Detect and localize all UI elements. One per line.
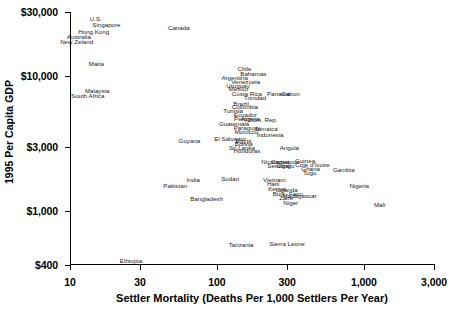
y-tick-mark: $30,000 — [65, 12, 71, 13]
y-tick-mark: $1,000 — [65, 211, 71, 212]
y-tick-mark: $10,000 — [65, 76, 71, 77]
data-point-label: Bangladesh — [190, 196, 223, 202]
x-tick-label: 100 — [208, 276, 225, 288]
data-point-label: Tanzania — [229, 242, 254, 248]
x-tick-label: 30 — [134, 276, 145, 288]
data-point-label: Niger — [283, 200, 298, 206]
plot-area: $400$1,000$3,000$10,000$30,000 103010030… — [70, 12, 434, 265]
data-point-label: India — [187, 176, 200, 182]
x-tick-mark: 30 — [140, 264, 141, 270]
data-point-label: Dom. Rep. — [248, 117, 278, 123]
data-point-label: Sierra Leone — [269, 241, 304, 247]
y-tick-mark: $3,000 — [65, 147, 71, 148]
data-point-label: Ethiopia — [120, 258, 142, 264]
data-point-label: Malta — [89, 61, 104, 67]
data-point-label: Sudan — [221, 176, 239, 182]
y-tick-label: $1,000 — [26, 205, 58, 217]
data-point-label: Guyana — [179, 138, 201, 144]
data-point-label: Canada — [168, 25, 190, 31]
scatter-plot-figure: 1995 Per Capita GDP $400$1,000$3,000$10,… — [0, 0, 468, 318]
x-tick-label: 3,000 — [421, 276, 447, 288]
x-tick-label: 300 — [278, 276, 295, 288]
data-point-label: Angola — [280, 144, 299, 150]
data-point-label: Honduras — [234, 148, 261, 154]
x-tick-mark: 300 — [287, 264, 288, 270]
x-tick-mark: 100 — [217, 264, 218, 270]
x-axis-title: Settler Mortality (Deaths Per 1,000 Sett… — [70, 292, 434, 304]
data-point-label: Gabon — [281, 91, 300, 97]
x-tick-mark: 10 — [70, 264, 71, 270]
data-point-label: New Zeland — [60, 38, 93, 44]
x-axis-line — [70, 264, 434, 265]
y-tick-label: $3,000 — [26, 141, 58, 153]
data-point-label: Mali — [374, 202, 385, 208]
y-tick-label: $400 — [35, 259, 58, 271]
x-tick-label: 1,000 — [351, 276, 377, 288]
y-tick-label: $10,000 — [21, 70, 58, 82]
x-tick-mark: 1,000 — [364, 264, 365, 270]
data-point-label: Nigeria — [349, 183, 369, 189]
data-point-label: Togo — [303, 170, 316, 176]
data-point-label: Pakistan — [163, 183, 187, 189]
data-point-label: Congo — [276, 163, 294, 169]
y-axis-title: 1995 Per Capita GDP — [2, 0, 16, 265]
y-tick-label: $30,000 — [21, 6, 58, 18]
data-point-label: Indonesia — [257, 132, 284, 138]
data-point-label: South Africa — [71, 93, 104, 99]
y-axis-line — [70, 12, 71, 265]
x-tick-mark: 3,000 — [434, 264, 435, 270]
x-tick-label: 10 — [64, 276, 75, 288]
data-point-label: Gambia — [333, 167, 355, 173]
